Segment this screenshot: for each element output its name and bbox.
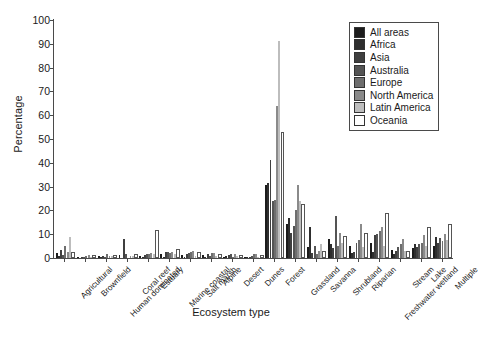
y-axis-tick-mark xyxy=(50,258,54,259)
x-axis-tick-mark xyxy=(379,258,380,262)
bar xyxy=(239,255,243,258)
bar xyxy=(385,213,389,258)
bar-group xyxy=(307,20,325,258)
y-axis-tick-mark xyxy=(50,20,54,21)
bar-group xyxy=(244,20,262,258)
x-axis-tick-mark xyxy=(169,258,170,262)
y-axis-tick-mark xyxy=(50,210,54,211)
y-axis-tick-mark xyxy=(50,91,54,92)
bar xyxy=(92,255,96,258)
legend-swatch xyxy=(354,52,365,63)
bar xyxy=(176,249,180,258)
bar-group xyxy=(119,20,137,258)
x-axis-tick-mark xyxy=(232,258,233,262)
chart-legend: All areasAfricaAsiaAustraliaEuropeNorth … xyxy=(349,22,439,131)
y-axis-tick-mark xyxy=(50,68,54,69)
legend-item[interactable]: Oceania xyxy=(354,114,433,127)
bar-group xyxy=(160,20,178,258)
legend-item[interactable]: All areas xyxy=(354,26,433,39)
bar xyxy=(448,224,452,258)
legend-swatch xyxy=(354,77,365,88)
bar-group xyxy=(286,20,304,258)
bar-group xyxy=(181,20,199,258)
x-axis-tick-label: Desert xyxy=(242,265,265,288)
bar xyxy=(260,255,264,258)
x-axis-tick-mark xyxy=(316,258,317,262)
bar-group xyxy=(202,20,220,258)
y-axis-tick-label: 40 xyxy=(38,157,50,169)
x-axis-tick-mark xyxy=(106,258,107,262)
bar-group xyxy=(98,20,116,258)
legend-label: North America xyxy=(370,90,433,101)
x-axis-tick-mark xyxy=(400,258,401,262)
y-axis-tick-label: 50 xyxy=(38,133,50,145)
y-axis-tick-mark xyxy=(50,44,54,45)
bar xyxy=(281,132,285,258)
bar-group xyxy=(56,20,74,258)
x-axis-tick-mark xyxy=(85,258,86,262)
x-axis-tick-mark xyxy=(337,258,338,262)
x-axis-tick-mark xyxy=(127,258,128,262)
y-axis-tick-label: 20 xyxy=(38,204,50,216)
y-axis-tick-label: 70 xyxy=(38,85,50,97)
legend-swatch xyxy=(354,27,365,38)
bar xyxy=(155,230,159,258)
legend-label: Europe xyxy=(370,77,402,88)
bar xyxy=(71,252,75,258)
y-axis-tick-mark xyxy=(50,234,54,235)
y-axis-tick-label: 90 xyxy=(38,38,50,50)
legend-label: Oceania xyxy=(370,115,407,126)
x-axis-tick-mark xyxy=(211,258,212,262)
y-axis-tick-label: 30 xyxy=(38,181,50,193)
bar-group xyxy=(265,20,283,258)
bar xyxy=(134,254,138,258)
bar xyxy=(218,254,222,258)
legend-label: Australia xyxy=(370,65,409,76)
x-axis-title: Ecosystem type xyxy=(0,306,462,318)
x-axis-tick-mark xyxy=(442,258,443,262)
legend-swatch xyxy=(354,102,365,113)
legend-label: All areas xyxy=(370,27,409,38)
y-axis-tick-label: 80 xyxy=(38,62,50,74)
bar xyxy=(113,255,117,258)
x-axis-tick-mark xyxy=(190,258,191,262)
y-axis-title: Percentage xyxy=(12,84,24,164)
legend-swatch xyxy=(354,65,365,76)
y-axis-tick-label: 10 xyxy=(38,228,50,240)
x-axis-tick-mark xyxy=(421,258,422,262)
x-axis-tick-mark xyxy=(253,258,254,262)
legend-swatch xyxy=(354,90,365,101)
legend-item[interactable]: Australia xyxy=(354,64,433,77)
legend-item[interactable]: Africa xyxy=(354,39,433,52)
bar xyxy=(301,204,305,258)
x-axis-tick-label: Forest xyxy=(284,265,307,288)
legend-label: Latin America xyxy=(370,102,431,113)
bar xyxy=(322,251,326,258)
legend-item[interactable]: North America xyxy=(354,89,433,102)
y-axis-tick-mark xyxy=(50,139,54,140)
y-axis-tick-label: 60 xyxy=(38,109,50,121)
x-axis-tick-mark xyxy=(148,258,149,262)
legend-item[interactable]: Latin America xyxy=(354,102,433,115)
bar xyxy=(119,255,121,258)
legend-item[interactable]: Europe xyxy=(354,76,433,89)
bar xyxy=(427,227,431,258)
x-axis-tick-mark xyxy=(64,258,65,262)
bar-group xyxy=(139,20,157,258)
legend-label: Asia xyxy=(370,52,389,63)
bar xyxy=(343,236,347,258)
x-axis-tick-mark xyxy=(274,258,275,262)
bar xyxy=(364,233,368,258)
x-axis-tick-label: Dunes xyxy=(263,265,286,288)
bar xyxy=(406,251,410,258)
x-axis-tick-mark xyxy=(358,258,359,262)
bar-group xyxy=(328,20,346,258)
y-axis-tick-mark xyxy=(50,163,54,164)
legend-label: Africa xyxy=(370,39,396,50)
bar-group xyxy=(223,20,241,258)
bar-group xyxy=(77,20,95,258)
y-axis-tick-mark xyxy=(50,187,54,188)
legend-item[interactable]: Asia xyxy=(354,51,433,64)
y-axis-tick-label: 100 xyxy=(32,14,50,26)
